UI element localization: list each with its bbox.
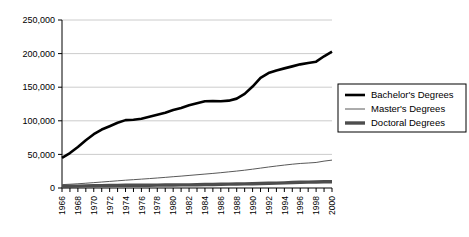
x-tick-label: 1998 bbox=[311, 196, 321, 215]
legend-label: Bachelor's Degrees bbox=[371, 89, 454, 100]
x-tick-label: 1966 bbox=[57, 196, 67, 215]
x-tick-label: 1994 bbox=[280, 196, 290, 215]
y-tick-label: 100,000 bbox=[22, 116, 55, 126]
y-axis-labels: 050,000100,000150,000200,000250,000 bbox=[22, 15, 55, 193]
y-tick-label: 200,000 bbox=[22, 49, 55, 59]
x-tick-label: 2000 bbox=[327, 196, 337, 215]
x-tick-label: 1996 bbox=[295, 196, 305, 215]
x-tick-label: 1976 bbox=[137, 196, 147, 215]
y-tick-label: 0 bbox=[50, 183, 55, 193]
y-tick-label: 250,000 bbox=[22, 15, 55, 25]
x-tick-label: 1982 bbox=[184, 196, 194, 215]
x-tick-label: 1972 bbox=[105, 196, 115, 215]
x-tick-label: 1992 bbox=[264, 196, 274, 215]
x-tick-label: 1990 bbox=[248, 196, 258, 215]
x-tick-label: 1980 bbox=[168, 196, 178, 215]
x-tick-label: 1978 bbox=[152, 196, 162, 215]
x-tick-label: 1970 bbox=[89, 196, 99, 215]
chart-container: 050,000100,000150,000200,000250,000 1966… bbox=[0, 0, 469, 237]
x-tick-label: 1974 bbox=[121, 196, 131, 215]
line-chart: 050,000100,000150,000200,000250,000 1966… bbox=[0, 0, 469, 237]
chart-legend: Bachelor's DegreesMaster's DegreesDoctor… bbox=[338, 84, 466, 132]
x-tick-label: 1986 bbox=[216, 196, 226, 215]
legend-label: Master's Degrees bbox=[371, 103, 445, 114]
x-axis-labels: 1966196819701972197419761978198019821984… bbox=[57, 196, 337, 215]
y-axis-tick-marks bbox=[58, 20, 62, 188]
x-tick-label: 1968 bbox=[73, 196, 83, 215]
x-tick-label: 1988 bbox=[232, 196, 242, 215]
y-tick-label: 50,000 bbox=[27, 150, 55, 160]
x-tick-label: 1984 bbox=[200, 196, 210, 215]
x-axis-tick-marks bbox=[62, 188, 332, 192]
legend-label: Doctoral Degrees bbox=[371, 117, 445, 128]
y-tick-label: 150,000 bbox=[22, 82, 55, 92]
